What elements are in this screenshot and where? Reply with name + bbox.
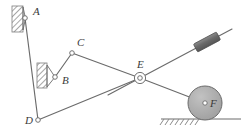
link-c-e [72,53,140,78]
label-a: A [32,5,40,17]
joint-c [70,51,75,56]
joint-b [53,75,58,80]
slider-block [193,32,220,52]
wall-hatch-b [37,63,47,88]
joint-a [23,16,28,21]
label-e: E [136,58,144,70]
slider-body [193,32,220,52]
label-d: D [24,114,33,126]
ground-hatching [160,119,199,125]
label-c: C [77,36,85,48]
mechanism-diagram: A B C D E F [0,0,241,131]
link-d-e [38,78,140,120]
wall-hatch-a [12,6,23,32]
label-b: B [62,74,69,86]
wall-support-b [37,63,55,88]
joint-e-inner [138,76,143,81]
label-f: F [209,97,217,109]
joint-d [36,118,41,123]
diagram-canvas: A B C D E F [0,0,241,131]
wheel-hub [203,101,207,105]
link-a-d [25,18,38,120]
wheel-f [188,86,222,120]
